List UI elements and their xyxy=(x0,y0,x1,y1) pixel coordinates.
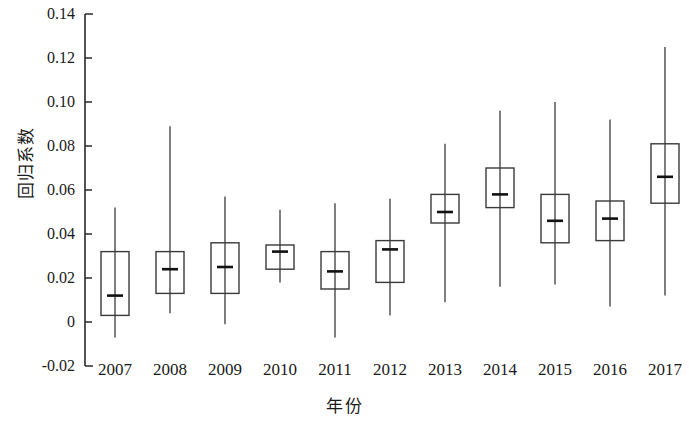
box-plot-2015 xyxy=(541,102,569,285)
box-plot-2012 xyxy=(376,199,404,316)
box-plot-2014 xyxy=(486,111,514,287)
x-tick-label: 2011 xyxy=(305,360,365,380)
box-plot-2009 xyxy=(211,197,239,325)
x-tick-label: 2017 xyxy=(635,360,689,380)
box-series xyxy=(101,47,679,337)
axes xyxy=(85,14,93,366)
box-plot-2007 xyxy=(101,208,129,338)
x-tick-label: 2009 xyxy=(195,360,255,380)
x-tick-label: 2013 xyxy=(415,360,475,380)
box-plot-2010 xyxy=(266,210,294,283)
box-plot-2011 xyxy=(321,203,349,337)
box-plot-2016 xyxy=(596,120,624,307)
box-plot-2013 xyxy=(431,144,459,302)
boxplot-chart: 回归系数 0.140.120.100.080.060.040.020-0.02 … xyxy=(0,0,689,423)
x-tick-label: 2015 xyxy=(525,360,585,380)
x-tick-label: 2012 xyxy=(360,360,420,380)
x-axis-title: 年份 xyxy=(0,392,689,417)
x-tick-label: 2016 xyxy=(580,360,640,380)
x-tick-label: 2007 xyxy=(85,360,145,380)
x-tick-label: 2008 xyxy=(140,360,200,380)
box-plot-2017 xyxy=(651,47,679,296)
box-plot-2008 xyxy=(156,126,184,313)
x-tick-label: 2014 xyxy=(470,360,530,380)
x-tick-label: 2010 xyxy=(250,360,310,380)
